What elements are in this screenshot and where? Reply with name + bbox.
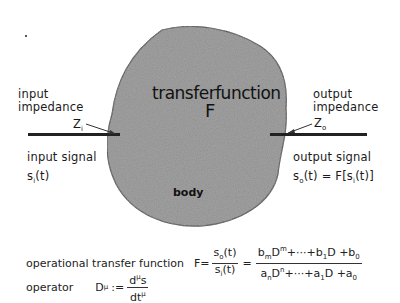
input-signal-expr: si(t)	[27, 170, 49, 188]
polynomial-fraction: bmDm+···+b1D +b0 anDn+···+a1D +a0	[256, 243, 362, 284]
output-impedance-label: output impedance	[313, 88, 379, 114]
stray-dot	[25, 35, 27, 37]
output-signal-expr: so(t) = F[si(t)]	[293, 170, 374, 188]
input-impedance-label: input impedance	[18, 88, 84, 114]
otf-label: operational transfer function	[26, 257, 184, 270]
body-label: body	[173, 186, 203, 199]
operator-label: operator	[26, 281, 73, 294]
output-impedance-pointer	[286, 121, 314, 135]
transferfunction-symbol: F	[205, 100, 215, 121]
input-impedance-pointer	[84, 122, 120, 136]
operator-definition-formula: operator Dμ := dμs dtμ	[26, 271, 148, 303]
output-impedance-symbol: Zo	[314, 117, 327, 135]
input-signal-label: input signal	[27, 151, 97, 164]
derivative-fraction: dμs dtμ	[127, 271, 148, 303]
output-signal-label: output signal	[293, 151, 371, 164]
signal-ratio-fraction: so(t) si(t)	[212, 247, 239, 280]
input-impedance-symbol: Zi	[73, 118, 83, 136]
